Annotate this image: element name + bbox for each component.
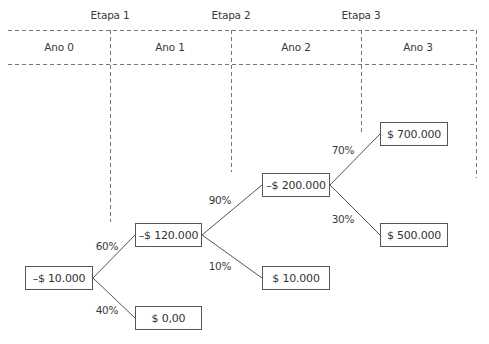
prob-label-40: 40% xyxy=(96,304,119,316)
node-year3-low: $ 500.000 xyxy=(380,223,448,247)
stage-label-1: Etapa 1 xyxy=(91,9,130,21)
node-year3-high: $ 700.000 xyxy=(380,122,448,146)
node-year2-fail: $ 10.000 xyxy=(262,266,330,290)
prob-label-30: 30% xyxy=(332,213,355,225)
prob-label-10: 10% xyxy=(209,260,232,272)
prob-label-70: 70% xyxy=(332,144,355,156)
node-year2-success: –$ 200.000 xyxy=(262,173,330,197)
branch-90 xyxy=(202,185,262,235)
stage-label-3: Etapa 3 xyxy=(342,9,381,21)
year-label-2: Ano 2 xyxy=(281,41,310,53)
year-label-1: Ano 1 xyxy=(155,41,184,53)
branch-30 xyxy=(330,185,380,235)
stage-label-2: Etapa 2 xyxy=(212,9,251,21)
branch-70 xyxy=(330,134,380,185)
node-year1-fail: $ 0,00 xyxy=(135,306,202,330)
year-label-0: Ano 0 xyxy=(44,41,73,53)
prob-label-60: 60% xyxy=(96,240,119,252)
prob-label-90: 90% xyxy=(209,194,232,206)
node-root: –$ 10.000 xyxy=(25,266,93,290)
node-year1-success: –$ 120.000 xyxy=(135,223,202,247)
year-label-3: Ano 3 xyxy=(403,41,432,53)
